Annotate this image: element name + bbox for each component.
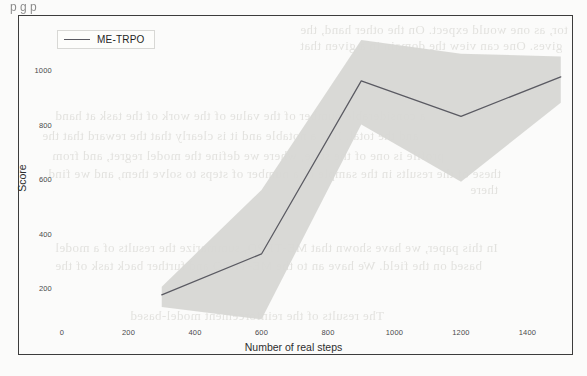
x-tick-400: 400 xyxy=(188,328,201,337)
x-tick-200: 200 xyxy=(122,328,135,337)
legend-label-me-trpo: ME-TRPO xyxy=(97,34,145,45)
x-tick-0: 0 xyxy=(60,328,64,337)
y-tick-400: 400 xyxy=(39,229,52,238)
scan-bleed-line: p g p xyxy=(10,0,587,14)
chart-legend: ME-TRPO xyxy=(57,30,155,49)
legend-line-swatch xyxy=(64,39,90,40)
x-tick-1000: 1000 xyxy=(386,328,404,337)
x-tick-800: 800 xyxy=(321,328,334,337)
x-tick-1200: 1200 xyxy=(452,328,470,337)
y-tick-1000: 1000 xyxy=(35,66,53,75)
y-axis-title: Score xyxy=(16,164,28,191)
y-tick-600: 600 xyxy=(39,175,52,184)
figure-frame xyxy=(18,15,573,355)
x-tick-600: 600 xyxy=(255,328,268,337)
scan-bleed-top: p g p xyxy=(10,0,587,14)
x-axis-title: Number of real steps xyxy=(0,341,587,353)
y-tick-200: 200 xyxy=(39,284,52,293)
x-tick-1400: 1400 xyxy=(519,328,537,337)
y-tick-800: 800 xyxy=(39,120,52,129)
